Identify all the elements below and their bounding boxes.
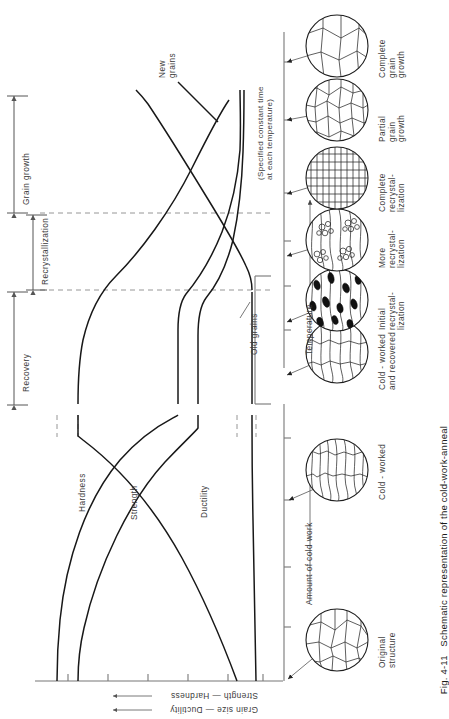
curve-label-old-grains: Old grains xyxy=(250,313,260,355)
micrograph-label-cold-worked: Cold - worked xyxy=(378,444,388,500)
curve-ductility xyxy=(78,415,237,681)
micrograph-label-complete-recrystallization: Complete recrystal- lization xyxy=(378,173,407,212)
new-grains-text: New grains xyxy=(157,53,177,78)
micrograph-label-cold-worked-recovered: Cold - worked and recovered xyxy=(378,332,397,390)
micrograph-more-recrystallization xyxy=(306,209,368,271)
figure-caption: Fig. 4-11 Schematic representation of th… xyxy=(427,426,449,700)
curve-ductility-anneal xyxy=(78,100,229,404)
stage-label-recovery: Recovery xyxy=(22,354,32,392)
micrograph-complete-grain-growth xyxy=(306,15,368,77)
region-boundaries xyxy=(40,213,272,437)
curve-label-strength: Strength xyxy=(130,485,140,520)
mid-axis xyxy=(284,404,291,681)
axis-label-rules xyxy=(113,696,152,710)
temperature-note: (Specified constant time at each tempera… xyxy=(256,86,274,180)
curve-label-ductility: Ductility xyxy=(200,485,210,518)
axis-label-amount-of-cold-work: Amount of cold work xyxy=(305,522,315,605)
property-axis xyxy=(35,674,283,681)
curve-label-hardness: Hardness xyxy=(78,473,88,512)
micrograph-complete-recrystallization xyxy=(306,147,368,209)
micrograph-label-original-structure: Original structure xyxy=(378,632,397,668)
curve-label-new-grains: New grains xyxy=(158,53,177,78)
micrograph-label-complete-grain-growth: Complete grain growth xyxy=(378,39,407,78)
figure-number: Fig. 4-11 xyxy=(438,655,449,694)
axis-label-grain-size-ductility: Grain size — Ductility xyxy=(170,704,258,714)
micrograph-cold-worked xyxy=(306,439,368,501)
curve-hardness xyxy=(57,415,178,681)
curve-strength xyxy=(78,415,198,681)
curve-old-grains-coldwork xyxy=(252,415,256,681)
figure-caption-text: Schematic representation of the cold-wor… xyxy=(438,426,449,647)
micrograph-label-partial-grain-growth: Partial grain growth xyxy=(378,115,407,142)
micrograph-original-structure xyxy=(306,609,368,671)
stage-label-grain-growth: Grain growth xyxy=(22,153,32,205)
axis-label-temperature: Temperature xyxy=(305,304,315,355)
anneal-axis xyxy=(284,32,291,368)
micrograph-label-initial-recrystallization: Initial recrystal- lization xyxy=(378,292,407,330)
micrograph-initial-recrystallization xyxy=(306,269,368,331)
micrograph-partial-grain-growth xyxy=(306,79,368,141)
stage-label-recrystallization: Recrystallization xyxy=(41,218,51,285)
curve-strength-anneal xyxy=(198,90,244,404)
micrograph-label-more-recrystallization: More recrystal- lization xyxy=(378,230,407,268)
axis-label-strength-hardness: Strength — Hardness xyxy=(171,690,258,700)
